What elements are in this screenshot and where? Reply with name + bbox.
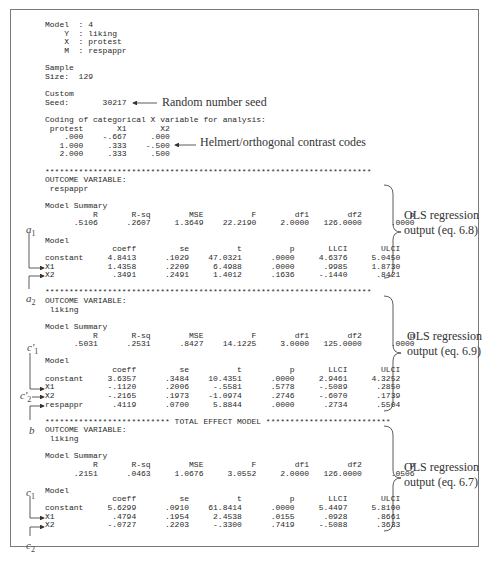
output-line: .5031 .2531 .8427 14.1225 3.0000 125.000…	[45, 340, 415, 349]
output-line	[45, 349, 415, 358]
output-line	[45, 56, 415, 65]
label-c2-prime: c′2	[20, 389, 31, 404]
ols-label-line: output (eq. 6.7)	[404, 475, 479, 490]
label-sub: 1	[32, 229, 36, 238]
contrast-note: Helmert/orthogonal contrast codes	[200, 135, 366, 150]
output-line: liking	[45, 306, 415, 315]
output-line	[45, 81, 415, 90]
output-line: Size: 129	[45, 73, 415, 82]
label-c2: c2	[26, 539, 35, 554]
output-line: M : respappr	[45, 47, 415, 56]
output-line: X2 .3491 .2491 1.4012 .1636 -.1440 .8421	[45, 271, 415, 280]
output-line: OUTCOME VARIABLE:	[45, 426, 415, 435]
ols-label-line: OLS regression	[404, 208, 479, 223]
label-sub: 2	[27, 395, 31, 404]
ols-label-eq-6-7: OLS regression output (eq. 6.7)	[404, 460, 479, 490]
output-line: respappr	[45, 185, 415, 194]
output-line: X2 -.0727 .2203 -.3300 .7419 -.5088 .363…	[45, 521, 415, 530]
output-line	[45, 478, 415, 487]
label-sub: 2	[32, 298, 36, 307]
output-line: .5106 .2607 1.3649 22.2190 2.0000 126.00…	[45, 219, 415, 228]
seed-note: Random number seed	[162, 95, 267, 110]
label-a1: a1	[26, 223, 36, 238]
ols-label-eq-6-8: OLS regression output (eq. 6.8)	[404, 208, 479, 238]
output-line: .2151 .0463 1.0676 3.0552 2.0000 126.000…	[45, 470, 415, 479]
label-c1: c1	[26, 486, 35, 501]
label-base: c	[27, 341, 32, 353]
output-line: Sample	[45, 64, 415, 73]
ols-label-line: output (eq. 6.9)	[407, 344, 482, 359]
ols-label-line: OLS regression	[407, 329, 482, 344]
label-sub: 1	[34, 347, 38, 356]
output-line: OUTCOME VARIABLE:	[45, 297, 415, 306]
label-b: b	[29, 424, 35, 436]
label-c1-prime: c′1	[27, 341, 38, 356]
output-line: OUTCOME VARIABLE:	[45, 176, 415, 185]
label-sub: 2	[31, 545, 35, 554]
output-line: liking	[45, 435, 415, 444]
label-base: c	[20, 389, 25, 401]
label-a2: a2	[26, 292, 36, 307]
ols-label-line: OLS regression	[404, 460, 479, 475]
output-line: 2.000 .333 .500	[45, 150, 415, 159]
output-line: respappr .4119 .0700 5.8844 .0000 .2734 …	[45, 401, 415, 410]
label-sub: 1	[31, 492, 35, 501]
output-line	[45, 228, 415, 237]
ols-label-eq-6-9: OLS regression output (eq. 6.9)	[407, 329, 482, 359]
ols-label-line: output (eq. 6.8)	[404, 223, 479, 238]
